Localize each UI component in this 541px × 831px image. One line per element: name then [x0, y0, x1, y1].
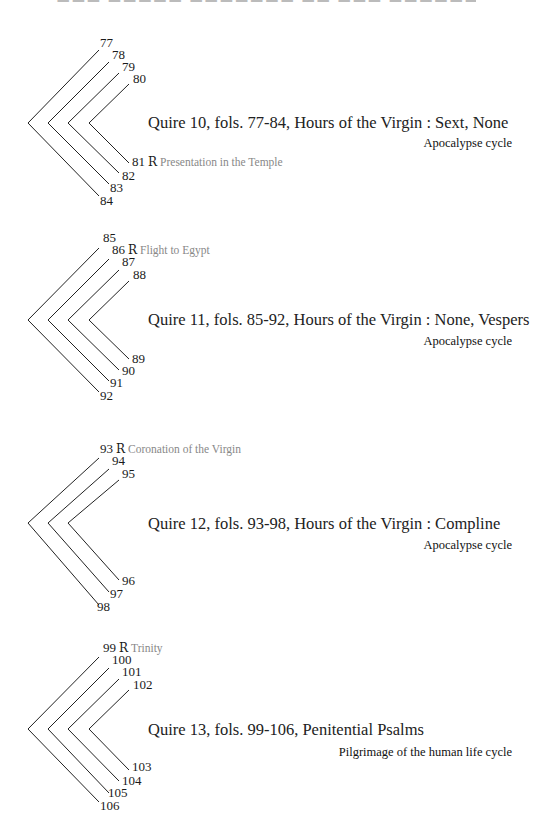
- miniature-subject: Coronation of the Virgin: [128, 443, 241, 455]
- folio-label: 103: [132, 760, 152, 774]
- quire-10-bifolia-lines: [0, 0, 541, 215]
- quire-11-bifolia-lines: [0, 200, 541, 415]
- miniature-subject: Presentation in the Temple: [160, 156, 283, 168]
- quire-10-diagram: 77 78 79 80 81RPresentation in the Templ…: [0, 0, 541, 215]
- quire-13-diagram: 99RTrinity 100 101 102 103 104 105 106 Q…: [0, 630, 541, 831]
- folio-label: 92: [100, 389, 113, 403]
- cycle-label: Apocalypse cycle: [423, 334, 512, 349]
- quire-title: Quire 11, fols. 85-92, Hours of the Virg…: [148, 310, 530, 330]
- quire-title: Quire 13, fols. 99-106, Penitential Psal…: [148, 720, 424, 740]
- miniature-subject: Trinity: [131, 642, 163, 654]
- quire-12-diagram: 93RCoronation of the Virgin 94 95 96 97 …: [0, 430, 541, 630]
- folio-label: 102: [133, 678, 153, 692]
- folio-label: 88: [133, 268, 146, 282]
- quire-title: Quire 12, fols. 93-98, Hours of the Virg…: [148, 514, 500, 534]
- quire-title: Quire 10, fols. 77-84, Hours of the Virg…: [148, 113, 508, 133]
- cycle-label: Apocalypse cycle: [423, 538, 512, 553]
- folio-label: 95: [122, 467, 135, 481]
- folio-label: 80: [133, 72, 146, 86]
- folio-label: 90: [122, 364, 135, 378]
- folio-label: 82: [122, 169, 135, 183]
- cycle-label: Apocalypse cycle: [423, 136, 512, 151]
- folio-label: 106: [100, 799, 120, 813]
- folio-label: 96: [122, 574, 135, 588]
- folio-label-with-miniature: 81RPresentation in the Temple: [132, 155, 283, 169]
- quire-11-diagram: 85 86RFlight to Egypt 87 88 89 90 91 92 …: [0, 200, 541, 415]
- folio-label: 98: [97, 600, 110, 614]
- miniature-subject: Flight to Egypt: [140, 244, 210, 256]
- folio-label: 97: [110, 587, 123, 601]
- cycle-label: Pilgrimage of the human life cycle: [339, 745, 512, 760]
